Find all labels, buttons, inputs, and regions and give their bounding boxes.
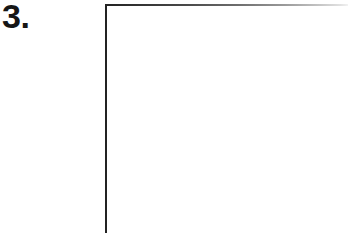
- item-number-label: 3.: [2, 0, 29, 34]
- document-page: 3.: [0, 0, 348, 233]
- frame-left-vertical-rule: [105, 4, 107, 233]
- answer-region-interior: [107, 6, 348, 233]
- blank-answer-region: [105, 4, 348, 233]
- frame-top-horizontal-rule: [105, 4, 348, 6]
